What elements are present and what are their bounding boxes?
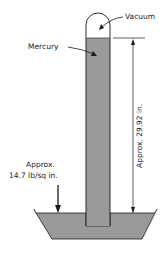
- barometer-diagram: Vacuum Mercury Approx. 29.92 in. Approx.…: [0, 0, 168, 257]
- pressure-label-line1: Approx.: [26, 160, 55, 169]
- mercury-column: [86, 38, 110, 226]
- pressure-label-line2: 14.7 lb/sq in.: [9, 171, 58, 180]
- height-label: Approx. 29.92 in.: [135, 104, 144, 168]
- basin-rim-right: [155, 209, 157, 213]
- vacuum-arrowhead-icon: [99, 24, 104, 30]
- mercury-label: Mercury: [28, 42, 59, 51]
- dimension-arrow-up-icon: [131, 39, 135, 45]
- vacuum-leader-line: [102, 17, 123, 27]
- dimension-arrow-down-icon: [131, 207, 135, 213]
- vacuum-label: Vacuum: [125, 12, 155, 21]
- pressure-arrow-down-icon: [55, 205, 61, 213]
- basin-rim-left: [34, 209, 36, 213]
